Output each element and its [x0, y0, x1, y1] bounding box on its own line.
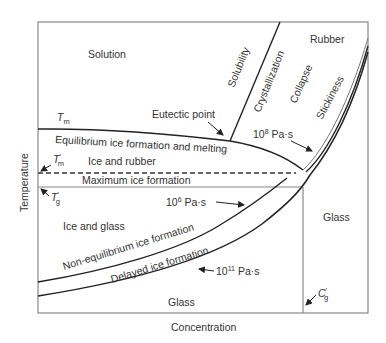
region-glass-right: Glass: [323, 211, 350, 223]
region-rubber: Rubber: [310, 33, 345, 45]
visc11-arrow: [199, 269, 214, 271]
region-ice-and-glass: Ice and glass: [63, 220, 125, 232]
x-axis-label: Concentration: [171, 321, 237, 333]
label-crystallization: Crystallization: [251, 49, 287, 114]
label-visc6: 106 Pa·s: [166, 196, 206, 208]
tg-prime-arrow: [41, 189, 49, 196]
label-tm-prime: T′m: [53, 152, 64, 168]
label-equilibrium: Equilibrium ice formation and melting: [55, 133, 228, 155]
visc8-arrow: [291, 141, 312, 151]
cg-prime-arrow: [306, 295, 316, 305]
region-solution: Solution: [88, 48, 126, 60]
region-ice-and-rubber: Ice and rubber: [88, 155, 156, 167]
tm-prime-arrow: [41, 165, 51, 171]
label-maximum: Maximum ice formation: [82, 174, 191, 186]
label-tg-prime: T′g: [51, 190, 60, 206]
eutectic-arrow: [208, 122, 223, 135]
label-visc11: 1011 Pa·s: [216, 265, 259, 277]
visc6-arrow: [216, 202, 244, 205]
label-eutectic-point: Eutectic point: [152, 108, 215, 120]
label-solubility: Solubility: [225, 45, 252, 89]
label-visc8: 108 Pa·s: [253, 128, 293, 140]
stickiness-curve-outer: [306, 46, 368, 172]
label-collapse: Collapse: [287, 62, 315, 104]
label-stickiness: Stickiness: [313, 74, 346, 121]
y-axis-label: Temperature: [18, 153, 30, 212]
state-diagram: Solution Rubber Ice and rubber Ice and g…: [0, 0, 386, 343]
label-cg-prime: C′g: [318, 286, 328, 302]
stickiness-curve-inner: [303, 38, 368, 170]
label-tm: Tm: [57, 111, 70, 126]
region-glass-bottom: Glass: [168, 296, 195, 308]
